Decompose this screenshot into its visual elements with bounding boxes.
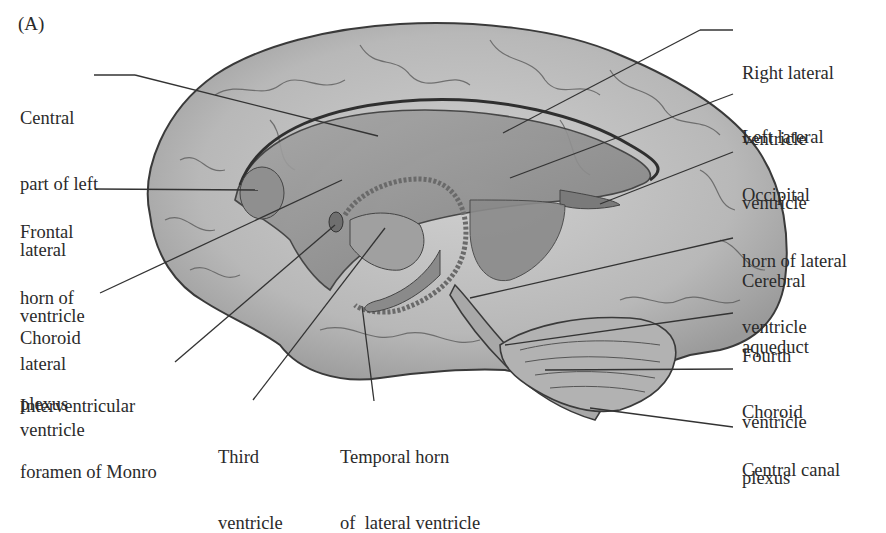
label-line: Third (218, 446, 283, 468)
label-central-canal: Central canal (742, 415, 840, 503)
label-line: of lateral ventricle (340, 512, 480, 533)
label-line: Right lateral (742, 62, 834, 84)
label-line: Temporal horn (340, 446, 480, 468)
label-line: Occipital (742, 184, 847, 206)
label-temporal-horn: Temporal horn of lateral ventricle (340, 402, 480, 533)
label-line: Central canal (742, 459, 840, 481)
label-line: Interventricular (20, 395, 157, 417)
frontal-horn-shape (240, 167, 284, 219)
label-line: Frontal (20, 221, 85, 243)
label-interventricular-foramen: Interventricular foramen of Monro (20, 351, 157, 505)
label-line: ventricle (218, 512, 283, 533)
label-line: foramen of Monro (20, 461, 157, 483)
label-line: Choroid (20, 327, 81, 349)
label-third-ventricle: Third ventricle (218, 402, 283, 533)
panel-label: (A) (18, 13, 44, 35)
cerebellum-shape (500, 317, 676, 411)
label-line: Central (20, 107, 98, 129)
label-line: Cerebral (742, 270, 809, 292)
